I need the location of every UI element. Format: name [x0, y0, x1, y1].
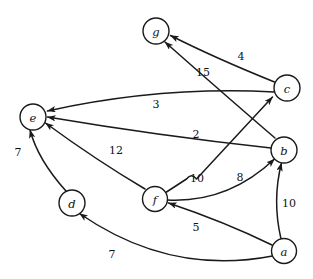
graph-canvas: 4 15 3 2 12 7 10 8 10 5 7 g c e [0, 0, 313, 279]
edge-weight-b-e: 2 [193, 128, 200, 141]
node-c-label: c [284, 82, 291, 96]
edge-weight-f-c: 10 [190, 172, 204, 185]
edge-a-to-f [169, 203, 273, 245]
edge-weight-a-f: 5 [193, 221, 200, 234]
edge-c-to-g [171, 36, 275, 83]
edge-weight-f-e: 12 [109, 144, 123, 157]
node-e-label: e [30, 111, 37, 125]
edge-f-to-c [167, 97, 273, 192]
edge-weight-f-b: 8 [237, 171, 244, 184]
edge-layer [30, 36, 282, 261]
node-d[interactable]: d [59, 190, 85, 216]
node-a-label: a [281, 245, 288, 259]
edge-d-to-e [30, 130, 66, 191]
edge-f-to-b [168, 159, 275, 200]
edge-b-to-e [48, 117, 272, 148]
node-a[interactable]: a [272, 239, 297, 264]
node-c[interactable]: c [274, 75, 300, 101]
edge-weight-c-e: 3 [153, 98, 160, 111]
node-f[interactable]: f [143, 187, 168, 212]
edge-weight-b-g: 15 [196, 66, 210, 79]
edge-a-to-b [277, 163, 282, 239]
edge-weight-d-e: 7 [15, 146, 22, 159]
node-g[interactable]: g [143, 18, 169, 44]
edge-weight-layer: 4 15 3 2 12 7 10 8 10 5 7 [15, 50, 297, 261]
edge-b-to-g [165, 42, 275, 138]
node-layer: g c e b d f a [20, 18, 300, 264]
edge-weight-a-d: 7 [109, 248, 116, 261]
node-e[interactable]: e [20, 104, 46, 130]
node-b-label: b [280, 144, 287, 158]
node-d-label: d [68, 197, 75, 211]
edge-weight-a-b: 10 [282, 197, 296, 210]
edge-weight-c-g: 4 [238, 50, 245, 63]
graph-figure: 4 15 3 2 12 7 10 8 10 5 7 g c e [0, 0, 313, 279]
node-b[interactable]: b [271, 137, 297, 163]
node-g-label: g [152, 25, 159, 39]
edge-f-to-e [46, 123, 146, 189]
